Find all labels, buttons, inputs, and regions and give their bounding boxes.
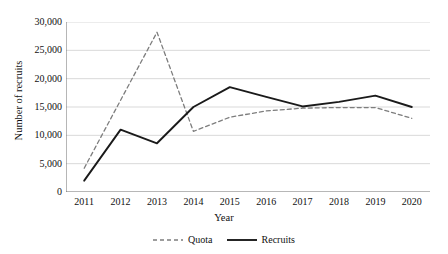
plot-area [66, 22, 430, 192]
x-axis-tick-label: 2016 [246, 196, 286, 207]
x-axis-title: Year [0, 212, 448, 223]
legend-label: Quota [188, 234, 212, 245]
series-line-recruits [84, 87, 412, 181]
x-axis-tick-label: 2019 [355, 196, 395, 207]
x-axis-tick-label: 2012 [101, 196, 141, 207]
plot-svg [66, 22, 430, 192]
legend-item-quota: Quota [153, 234, 212, 245]
y-axis-tick-label: 15,000 [16, 102, 62, 112]
x-axis-tick-label: 2017 [283, 196, 323, 207]
x-axis-tick-label: 2020 [392, 196, 432, 207]
y-axis-tick-label: 20,000 [16, 74, 62, 84]
x-axis-tick-label: 2018 [319, 196, 359, 207]
y-axis-tick-label: 5,000 [16, 159, 62, 169]
y-axis-tick-label: 25,000 [16, 45, 62, 55]
y-axis-tick-label: 30,000 [16, 17, 62, 27]
legend-item-recruits: Recruits [227, 234, 295, 245]
y-axis-tick-label: 0 [16, 187, 62, 197]
legend-swatch-recruits [227, 236, 257, 244]
line-chart: Number of recruits 30,00025,00020,00015,… [0, 0, 448, 254]
x-axis-tick-label: 2013 [137, 196, 177, 207]
y-axis-tick-label: 10,000 [16, 130, 62, 140]
legend-swatch-quota [153, 236, 183, 244]
x-axis-tick-label: 2015 [210, 196, 250, 207]
x-axis-tick-label: 2011 [64, 196, 104, 207]
x-axis-tick-labels: 2011201220132014201520162017201820192020 [66, 196, 430, 212]
legend-label: Recruits [262, 234, 295, 245]
x-axis-tick-label: 2014 [173, 196, 213, 207]
series-line-quota [84, 32, 412, 168]
chart-legend: QuotaRecruits [0, 234, 448, 245]
